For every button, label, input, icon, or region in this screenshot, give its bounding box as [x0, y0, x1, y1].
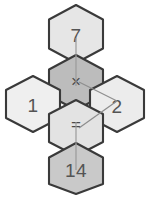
figure-canvas: 7 × 1 2 = 14: [0, 0, 149, 199]
hexagon-equation-diagram: 7 × 1 2 = 14: [0, 0, 149, 199]
hex-tile-1-label: 1: [27, 95, 38, 116]
